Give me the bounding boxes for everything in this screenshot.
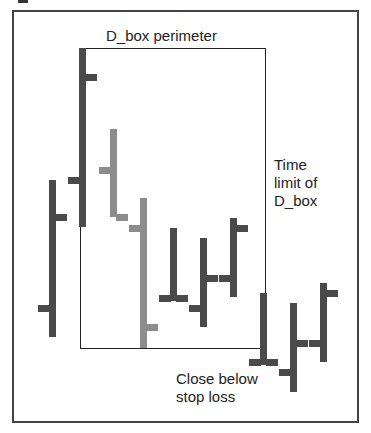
close-tick (116, 214, 128, 221)
close-below-stop-loss-label: Close below stop loss (176, 370, 258, 406)
open-tick (249, 359, 261, 366)
open-tick (219, 275, 231, 282)
open-tick (159, 295, 171, 302)
ohlc-bar-5 (170, 228, 177, 301)
close-tick (206, 275, 218, 282)
ohlc-bar-1 (49, 180, 56, 337)
ohlc-bar-9 (290, 303, 297, 392)
ohlc-bar-6 (200, 238, 207, 327)
close-tick (85, 74, 97, 81)
dbox-perimeter-label: D_box perimeter (106, 27, 217, 45)
corner-mark (18, 0, 28, 3)
dbox-perimeter-rect (80, 48, 266, 349)
close-tick (326, 290, 338, 297)
close-tick (176, 295, 188, 302)
open-tick (189, 305, 201, 312)
close-tick (236, 225, 248, 232)
ohlc-bar-8 (260, 293, 267, 365)
close-tick (146, 324, 158, 331)
ohlc-bar-3 (110, 129, 117, 217)
open-tick (99, 167, 111, 174)
close-tick (55, 214, 67, 221)
time-limit-label: Time limit of D_box (274, 156, 317, 210)
close-tick (296, 340, 308, 347)
open-tick (68, 177, 80, 184)
open-tick (38, 305, 50, 312)
close-tick (266, 359, 278, 366)
open-tick (309, 340, 321, 347)
open-tick (279, 369, 291, 376)
open-tick (129, 225, 141, 232)
